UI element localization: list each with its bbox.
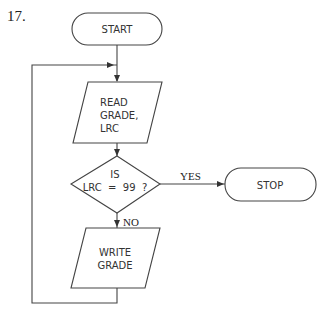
decision-line-1: IS — [110, 169, 119, 180]
read-line-2: GRADE, — [100, 110, 138, 121]
start-label: START — [102, 24, 134, 35]
read-input-box: READ GRADE, LRC — [73, 82, 162, 143]
write-output-box: WRITE GRADE — [71, 228, 160, 288]
read-line-1: READ — [100, 97, 128, 108]
flowchart: 17. START READ GRADE, LRC IS LRC = 99 ? … — [0, 0, 327, 317]
arrow-right-icon — [107, 62, 114, 68]
stop-label: STOP — [257, 180, 283, 191]
yes-label: YES — [180, 170, 201, 182]
arrow-right-icon — [217, 181, 224, 187]
read-line-3: LRC — [100, 123, 119, 134]
stop-terminal: STOP — [225, 168, 316, 201]
decision-diamond: IS LRC = 99 ? — [71, 156, 160, 213]
no-label: NO — [123, 216, 139, 228]
arrow-down-icon — [114, 149, 120, 156]
problem-number: 17. — [7, 8, 26, 24]
arrow-down-icon — [114, 75, 120, 82]
write-line-2: GRADE — [97, 260, 132, 271]
arrow-down-icon — [114, 220, 120, 227]
write-line-1: WRITE — [99, 247, 131, 258]
start-terminal: START — [72, 13, 162, 45]
decision-line-2: LRC = 99 ? — [83, 182, 148, 193]
